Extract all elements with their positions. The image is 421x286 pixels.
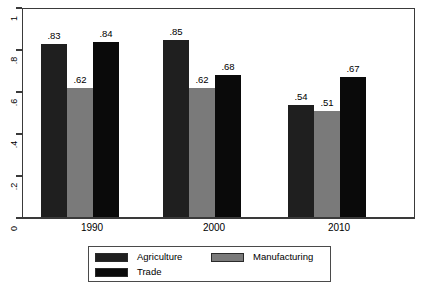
legend-item[interactable]: Trade [95, 267, 161, 277]
bar [288, 105, 314, 218]
legend-swatch [211, 253, 244, 262]
legend: AgricultureManufacturingTrade [88, 246, 331, 282]
legend-swatch [95, 253, 128, 262]
bar [93, 42, 119, 218]
bar-value-label: .85 [156, 27, 196, 37]
y-axis-tick-label: 1 [10, 8, 19, 28]
bar [41, 44, 67, 218]
bar [189, 88, 215, 218]
legend-label: Agriculture [137, 252, 182, 262]
x-axis-label: 2010 [299, 222, 379, 234]
bar-value-label: .84 [86, 29, 126, 39]
y-axis-tick-label: .4 [10, 134, 19, 154]
legend-item[interactable]: Agriculture [95, 252, 182, 262]
bar [215, 75, 241, 218]
bar-value-label: .83 [34, 31, 74, 41]
x-axis-label: 2000 [174, 222, 254, 234]
plot-area: .83.62.84.85.62.68.54.51.67 [22, 8, 415, 218]
bar-value-label: .67 [333, 64, 373, 74]
x-axis-label: 1990 [52, 222, 132, 234]
x-axis-line [22, 217, 415, 219]
bar-value-label: .68 [208, 62, 248, 72]
y-axis-tick-label: 0 [10, 218, 19, 238]
bar [340, 77, 366, 218]
y-axis-tick-label: .8 [10, 50, 19, 70]
legend-item[interactable]: Manufacturing [211, 252, 313, 262]
y-axis-tick-label: .2 [10, 176, 19, 196]
legend-swatch [95, 268, 128, 277]
bar [67, 88, 93, 218]
bar [163, 40, 189, 219]
bar [314, 111, 340, 218]
y-axis: 1.8.6.4.20 [0, 0, 22, 226]
bar-chart-figure: 1.8.6.4.20 .83.62.84.85.62.68.54.51.67 1… [0, 0, 421, 286]
legend-label: Trade [137, 267, 161, 277]
legend-label: Manufacturing [253, 252, 313, 262]
y-axis-tick-label: .6 [10, 92, 19, 112]
